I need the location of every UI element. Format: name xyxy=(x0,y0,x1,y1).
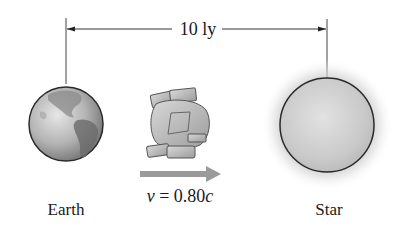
velocity-symbol: v xyxy=(147,186,155,206)
earth-icon xyxy=(29,87,103,161)
velocity-value: 0.80 xyxy=(174,186,206,206)
velocity-unit: c xyxy=(205,186,213,206)
star-icon xyxy=(261,59,393,191)
right-arrowhead-icon xyxy=(318,27,326,32)
velocity-equals: = xyxy=(155,186,174,206)
spaceship-icon xyxy=(146,88,209,158)
left-arrowhead-icon xyxy=(67,27,75,32)
star-label: Star xyxy=(299,201,359,219)
velocity-label: v = 0.80c xyxy=(132,186,228,206)
earth-label: Earth xyxy=(36,201,96,219)
relativity-diagram: 10 ly Earth Star v = 0.80c xyxy=(0,0,399,230)
distance-label: 10 ly xyxy=(174,19,222,39)
velocity-arrow-icon xyxy=(140,166,221,182)
